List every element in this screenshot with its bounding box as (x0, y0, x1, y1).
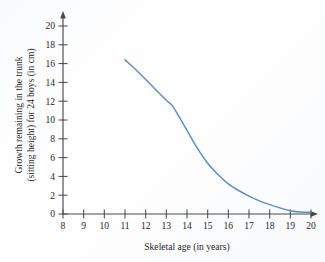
y-axis-arrow-icon (60, 11, 66, 19)
y-tick-label: 8 (50, 133, 55, 144)
y-axis-label-line1: Growth remaining in the trunk (13, 56, 24, 173)
chart-canvas: Growth remaining in the trunk (sitting h… (0, 0, 325, 262)
y-tick-label: 18 (45, 39, 55, 50)
chart-figure: Growth remaining in the trunk (sitting h… (0, 0, 325, 262)
x-tick-label: 18 (265, 220, 275, 231)
x-tick-label: 10 (100, 220, 110, 231)
x-tick-label: 9 (81, 220, 86, 231)
y-tick-label: 4 (50, 171, 55, 182)
x-tick-label: 13 (162, 220, 172, 231)
x-tick-label: 11 (120, 220, 129, 231)
y-tick-label: 16 (45, 58, 55, 69)
y-axis-tick-labels: 0 2 4 6 8 10 12 14 16 18 20 (45, 20, 55, 219)
y-tick-label: 10 (45, 114, 55, 125)
y-axis-label-line2: (sitting height) for 24 boys (in cm) (25, 48, 37, 181)
y-tick-label: 2 (50, 190, 55, 201)
growth-curve (125, 60, 311, 212)
x-axis-label: Skeletal age (in years) (144, 241, 230, 253)
y-tick-label: 6 (50, 152, 55, 163)
y-tick-label: 14 (45, 77, 55, 88)
x-tick-label: 16 (224, 220, 234, 231)
x-tick-label: 8 (61, 220, 66, 231)
x-tick-label: 19 (286, 220, 296, 231)
x-tick-label: 12 (141, 220, 151, 231)
y-tick-label: 0 (50, 208, 55, 219)
x-axis-tick-labels: 8 9 10 11 12 13 14 15 16 17 18 19 20 (61, 220, 316, 231)
y-tick-label: 20 (45, 20, 55, 31)
x-tick-label: 20 (306, 220, 316, 231)
x-tick-label: 15 (203, 220, 213, 231)
x-tick-label: 14 (182, 220, 192, 231)
x-tick-label: 17 (244, 220, 254, 231)
y-tick-label: 12 (45, 96, 55, 107)
